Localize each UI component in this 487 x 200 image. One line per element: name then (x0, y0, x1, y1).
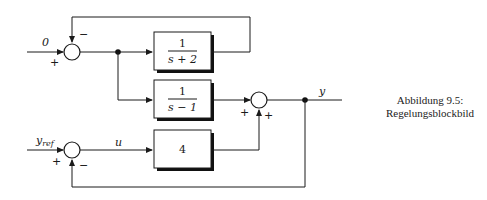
block1-denominator: s + 2 (168, 53, 197, 66)
figure-caption-title: Abbildung 9.5: (397, 94, 464, 106)
summing-junction-2 (251, 92, 267, 108)
output-y-label: y (318, 85, 326, 98)
figure-caption-text: Regelungsblockbild (386, 107, 474, 119)
signal-zero-label: 0 (42, 36, 49, 49)
sum3-minus-sign: − (79, 159, 88, 172)
block-diagram: 0 + − 1 s + 2 1 s − 1 + + y yref + − u 4… (0, 0, 487, 200)
sum1-plus-sign: + (50, 56, 59, 69)
control-u-label: u (115, 136, 122, 149)
yref-subscript: ref (42, 139, 56, 148)
summing-junction-1 (64, 44, 80, 60)
line-junction-to-block2 (118, 52, 152, 100)
block2-numerator: 1 (179, 85, 186, 98)
yref-label: yref (35, 134, 56, 148)
sum1-minus-sign: − (79, 28, 88, 41)
block2-denominator: s − 1 (168, 101, 197, 114)
summing-junction-3 (64, 142, 80, 158)
sum3-plus-sign: + (52, 155, 61, 168)
sum2-plus-bottom-sign: + (264, 109, 273, 122)
sum2-plus-left-sign: + (240, 106, 249, 119)
block3-gain: 4 (179, 143, 186, 156)
block1-numerator: 1 (179, 37, 186, 50)
line-block3-to-sum2 (211, 110, 259, 150)
